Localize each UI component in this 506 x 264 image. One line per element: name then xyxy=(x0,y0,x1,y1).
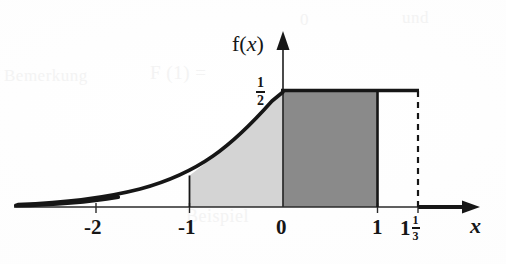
light-shaded-region xyxy=(190,92,284,207)
y-axis-arrowhead xyxy=(277,31,290,50)
y-axis-label: f(x) xyxy=(232,31,264,57)
fraction-numerator: 1 xyxy=(256,76,265,90)
dark-shaded-region xyxy=(283,92,378,207)
y-tick-label-one-half: 1 2 xyxy=(256,76,265,108)
fraction-one-third: 1 3 xyxy=(412,214,420,242)
fraction-numerator: 1 xyxy=(412,214,420,226)
x-tick-label-one-and-one-third: 1 1 3 xyxy=(400,214,420,242)
function-curve-tail xyxy=(16,197,118,206)
x-tick-label-zero: 0 xyxy=(276,215,287,240)
fraction-denominator: 2 xyxy=(256,94,265,108)
y-axis-label-text: f(x) xyxy=(232,31,264,56)
mixed-whole-part: 1 xyxy=(400,216,411,241)
x-tick-label-one: 1 xyxy=(372,215,383,240)
fraction-one-half: 1 2 xyxy=(256,76,265,108)
fraction-denominator: 3 xyxy=(412,230,420,242)
x-tick-label-minus-1: -1 xyxy=(178,215,196,240)
mixed-number: 1 1 3 xyxy=(400,214,420,242)
x-tick-label-minus-2: -2 xyxy=(84,215,102,240)
x-axis-label: x xyxy=(470,213,481,239)
figure-container: Bemerkung F (1) = 0 Beispiel und xyxy=(0,0,506,264)
